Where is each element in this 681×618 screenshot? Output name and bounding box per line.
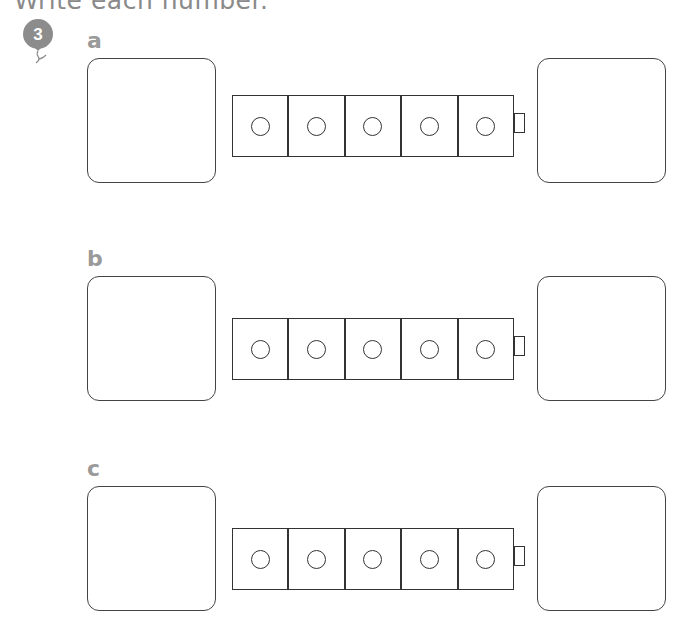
cube-train-b (232, 318, 526, 380)
cube (232, 318, 288, 380)
cube-circle-icon (420, 550, 439, 569)
cube-connector-icon (514, 546, 525, 566)
cube-circle-icon (307, 117, 326, 136)
cube-circle-icon (251, 550, 270, 569)
cube (288, 95, 344, 157)
cube-connector-icon (514, 113, 525, 133)
cube (345, 528, 401, 590)
cube (401, 95, 457, 157)
cube (345, 318, 401, 380)
cube (401, 318, 457, 380)
cube (345, 95, 401, 157)
cube-train-a (232, 95, 526, 157)
question-number: 3 (33, 25, 42, 44)
answer-box-left-c[interactable] (87, 486, 216, 611)
cube-train-c (232, 528, 526, 590)
cube (288, 318, 344, 380)
cube-circle-icon (307, 340, 326, 359)
cube (458, 95, 514, 157)
cube-circle-icon (251, 340, 270, 359)
cube-circle-icon (251, 117, 270, 136)
cube (458, 528, 514, 590)
cube-circle-icon (476, 117, 495, 136)
cube-circle-icon (363, 340, 382, 359)
row-label-a: a (87, 30, 102, 52)
answer-box-left-a[interactable] (87, 58, 216, 183)
cube-circle-icon (307, 550, 326, 569)
cube (288, 528, 344, 590)
row-label-c: c (87, 458, 100, 480)
row-label-b: b (87, 248, 103, 270)
cube (232, 95, 288, 157)
cube (458, 318, 514, 380)
cube-circle-icon (420, 117, 439, 136)
cube-circle-icon (420, 340, 439, 359)
answer-box-right-b[interactable] (537, 276, 666, 401)
instruction-title: Write each number. (14, 0, 268, 15)
answer-box-right-c[interactable] (537, 486, 666, 611)
cube-circle-icon (476, 550, 495, 569)
cube (401, 528, 457, 590)
answer-box-right-a[interactable] (537, 58, 666, 183)
cube (232, 528, 288, 590)
cube-circle-icon (476, 340, 495, 359)
cube-circle-icon (363, 117, 382, 136)
cube-circle-icon (363, 550, 382, 569)
cube-connector-icon (514, 336, 525, 356)
question-number-balloon-icon: 3 (22, 19, 58, 65)
answer-box-left-b[interactable] (87, 276, 216, 401)
